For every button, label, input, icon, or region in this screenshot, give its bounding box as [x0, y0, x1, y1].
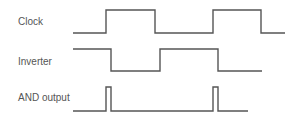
waveforms: [0, 0, 300, 120]
inverter-waveform: [73, 49, 262, 71]
and-output-waveform: [73, 87, 248, 111]
clock-waveform: [73, 10, 285, 33]
